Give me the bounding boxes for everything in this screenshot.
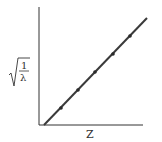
data-point	[111, 52, 115, 56]
ylabel-denominator: λ	[20, 72, 27, 83]
x-axis-label: Z	[86, 128, 94, 141]
data-point	[93, 70, 97, 74]
data-point	[59, 106, 63, 110]
data-point	[128, 34, 132, 38]
chart-plot: 1 λ Z	[0, 0, 162, 142]
ylabel-numerator: 1	[21, 60, 27, 71]
data-point	[76, 88, 80, 92]
